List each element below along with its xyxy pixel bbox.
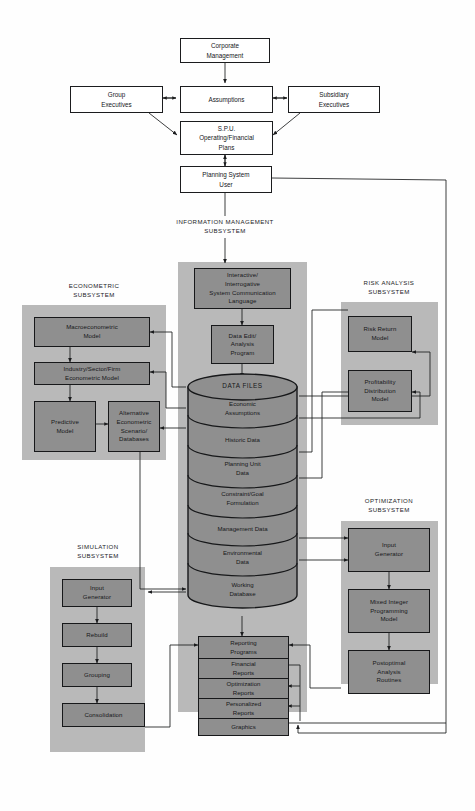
box-corporate-management[interactable]: Corporate Management [180, 38, 270, 63]
profitability-distribution-label: Profitability Distribution Model [364, 378, 396, 404]
subsidiary-executives-label: Subsidiary Executives [319, 90, 349, 109]
predictive-model-label: Predictive Model [51, 418, 79, 435]
caption-simulation: SIMULATION SUBSYSTEM [42, 543, 154, 560]
financial-reports-label: Financial Reports [231, 660, 255, 677]
node-personalized-reports[interactable]: Personalized Reports [198, 698, 289, 719]
data-edit-analysis-label: Data Edit/ Analysis Program [229, 332, 257, 358]
postoptimal-analysis-label: Postoptimal Analysis Routines [373, 659, 406, 685]
simulation-input-generator-label: Input Generator [83, 584, 111, 601]
caption-optimization: OPTIMIZATION SUBSYSTEM [334, 497, 444, 514]
cylinder-shape [186, 373, 299, 616]
personalized-reports-label: Personalized Reports [226, 700, 261, 717]
node-profitability-distribution-model[interactable]: Profitability Distribution Model [348, 370, 412, 412]
macroeconometric-model-label: Macroeconometric Model [66, 323, 118, 340]
group-executives-label: Group Executives [101, 90, 131, 109]
node-graphics[interactable]: Graphics [198, 718, 289, 736]
node-data-edit-analysis[interactable]: Data Edit/ Analysis Program [211, 325, 274, 364]
node-risk-return-model[interactable]: Risk Return Model [348, 316, 412, 352]
optimization-input-generator-label: Input Generator [375, 541, 403, 558]
corporate-management-label: Corporate Management [207, 41, 244, 60]
mixed-integer-programming-label: Mixed Integer Programming Model [370, 598, 408, 624]
node-reporting-programs[interactable]: Reporting Programs [198, 636, 289, 659]
caption-econometric: ECONOMETRIC SUBSYSTEM [34, 282, 154, 299]
node-comm-language[interactable]: Interactive/ Interrogative System Commun… [194, 268, 291, 309]
assumptions-label: Assumptions [208, 95, 244, 104]
node-alternative-econometric-scenario-databases[interactable]: Alternative Econometric Scenario/ Databa… [108, 401, 160, 452]
caption-information-management: INFORMATION MANAGEMENT SUBSYSTEM [150, 218, 300, 235]
reporting-programs-label: Reporting Programs [230, 639, 256, 656]
data-files-cylinder[interactable]: DATA FILES Economic Assumptions Historic… [186, 373, 299, 616]
optimization-reports-label: Optimization Reports [227, 680, 261, 697]
box-spu-plans[interactable]: S.P.U. Operating/Financial Plans [180, 121, 273, 155]
box-subsidiary-executives[interactable]: Subsidiary Executives [288, 86, 380, 113]
caption-risk-analysis: RISK ANALYSIS SUBSYSTEM [334, 279, 444, 296]
risk-return-model-label: Risk Return Model [364, 325, 397, 342]
box-planning-system-user[interactable]: Planning System User [180, 166, 272, 193]
rebuild-label: Rebuild [86, 631, 107, 640]
node-mixed-integer-programming-model[interactable]: Mixed Integer Programming Model [348, 589, 430, 633]
node-industry-sector-firm-econometric-model[interactable]: Industry/Sector/Firm Econometric Model [34, 362, 150, 385]
box-assumptions[interactable]: Assumptions [180, 86, 273, 113]
node-rebuild[interactable]: Rebuild [62, 623, 132, 647]
consolidation-label: Consolidation [84, 711, 122, 720]
comm-language-label: Interactive/ Interrogative System Commun… [209, 271, 275, 306]
node-optimization-input-generator[interactable]: Input Generator [348, 528, 430, 572]
diagram-canvas: Corporate Management Group Executives As… [0, 0, 475, 811]
node-optimization-reports[interactable]: Optimization Reports [198, 678, 289, 699]
spu-plans-label: S.P.U. Operating/Financial Plans [199, 124, 254, 152]
node-financial-reports[interactable]: Financial Reports [198, 658, 289, 679]
node-consolidation[interactable]: Consolidation [62, 703, 145, 727]
node-macroeconometric-model[interactable]: Macroeconometric Model [34, 317, 150, 347]
node-predictive-model[interactable]: Predictive Model [34, 401, 96, 452]
planning-system-user-label: Planning System User [202, 170, 249, 189]
industry-sector-firm-label: Industry/Sector/Firm Econometric Model [64, 365, 121, 382]
box-group-executives[interactable]: Group Executives [70, 86, 163, 113]
graphics-label: Graphics [231, 723, 255, 732]
alternative-scenario-label: Alternative Econometric Scenario/ Databa… [117, 409, 152, 444]
node-grouping[interactable]: Grouping [62, 663, 132, 687]
node-postoptimal-analysis-routines[interactable]: Postoptimal Analysis Routines [348, 650, 430, 694]
grouping-label: Grouping [84, 671, 110, 680]
node-simulation-input-generator[interactable]: Input Generator [62, 579, 132, 607]
